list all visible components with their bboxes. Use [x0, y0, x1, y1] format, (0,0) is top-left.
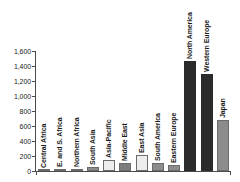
bar-group: Japan	[217, 51, 229, 171]
y-tick-mark	[32, 81, 35, 82]
y-tick-label: 400	[20, 138, 31, 145]
bar-group: Northern Africa	[71, 51, 83, 171]
bar-category-label: East Asia	[137, 122, 145, 152]
bar-group: South America	[152, 51, 164, 171]
bar-category-label: Central Africa	[40, 124, 48, 168]
bar-group: South Asia	[87, 51, 99, 171]
bar	[71, 169, 83, 171]
bar	[201, 74, 213, 171]
bar-group: Eastern Europe	[168, 51, 180, 171]
bar	[217, 120, 229, 171]
bar-group: Western Europe	[201, 51, 213, 171]
bar-category-label: Japan	[218, 98, 226, 118]
bar-category-label: South America	[153, 113, 161, 161]
bar-category-label: Western Europe	[202, 20, 210, 72]
bar-category-label: Eastern Europe	[170, 112, 178, 162]
y-tick-mark	[32, 141, 35, 142]
bar	[119, 163, 131, 171]
bar	[136, 155, 148, 172]
bar-group: Middle East	[119, 51, 131, 171]
y-tick-label: 1,200	[14, 78, 31, 85]
bar	[103, 160, 115, 171]
bar	[54, 169, 66, 171]
bar-group: E. and S. Africa	[54, 51, 66, 171]
bar	[168, 165, 180, 171]
bar-chart: 02004006008001,0001,2001,4001,600 Centra…	[0, 0, 240, 182]
bar-category-label: South Asia	[88, 129, 96, 164]
y-tick-label: 600	[20, 123, 31, 130]
y-tick-mark	[32, 51, 35, 52]
y-tick-mark	[32, 96, 35, 97]
bar	[152, 163, 164, 171]
x-axis-end-tick	[36, 171, 37, 175]
y-tick-mark	[32, 66, 35, 67]
bar-category-label: Northern Africa	[72, 117, 80, 167]
x-axis-line	[35, 171, 231, 172]
y-tick-mark	[32, 171, 35, 172]
bar-category-label: Asia-Pacific	[105, 119, 113, 158]
bar	[38, 169, 50, 171]
plot-area: Central AfricaE. and S. AfricaNorthern A…	[36, 51, 231, 171]
bar	[184, 61, 196, 171]
x-axis-end-tick	[230, 171, 231, 175]
y-tick-label: 0	[27, 168, 31, 175]
bar-category-label: E. and S. Africa	[56, 118, 64, 168]
bar-group: Central Africa	[38, 51, 50, 171]
bar	[87, 167, 99, 172]
bar-group: East Asia	[136, 51, 148, 171]
y-tick-mark	[32, 111, 35, 112]
y-tick-label: 200	[20, 153, 31, 160]
bar-group: Asia-Pacific	[103, 51, 115, 171]
y-tick-label: 1,400	[14, 63, 31, 70]
y-tick-mark	[32, 156, 35, 157]
y-tick-label: 1,600	[14, 48, 31, 55]
bar-group: North America	[184, 51, 196, 171]
bar-category-label: Middle East	[121, 123, 129, 161]
y-axis: 02004006008001,0001,2001,4001,600	[0, 0, 31, 182]
y-tick-label: 1,000	[14, 93, 31, 100]
y-tick-label: 800	[20, 108, 31, 115]
bar-category-label: North America	[186, 12, 194, 59]
y-tick-mark	[32, 126, 35, 127]
